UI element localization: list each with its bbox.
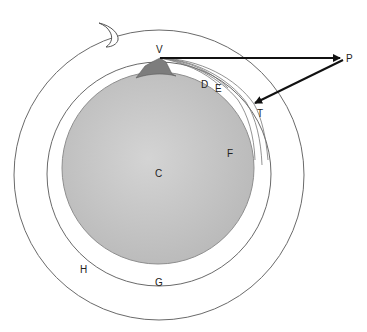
sightline-p-to-t (255, 60, 343, 103)
crescent-moon-icon (99, 23, 118, 47)
label-g: G (155, 277, 163, 288)
label-p: P (346, 53, 353, 64)
label-e: E (215, 83, 222, 94)
label-f: F (227, 148, 233, 159)
label-d: D (201, 79, 208, 90)
diagram-canvas: V P D E F T C G H (0, 0, 367, 332)
label-h: H (80, 264, 87, 275)
label-c: C (155, 168, 162, 179)
label-t: T (257, 108, 263, 119)
label-v: V (156, 44, 163, 55)
